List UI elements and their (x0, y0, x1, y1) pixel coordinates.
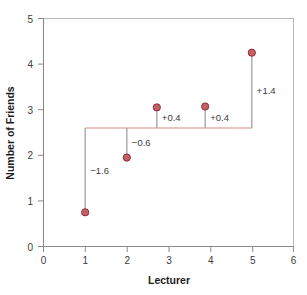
y-tick-label-4: 4 (27, 59, 33, 70)
data-point-4 (202, 103, 209, 110)
chart-canvas: 0 1 2 3 4 5 0 1 2 3 4 5 6 Lecturer Numbe… (0, 0, 307, 295)
deviation-label-5: +1.4 (257, 85, 276, 96)
x-tick-label-0: 0 (41, 255, 47, 266)
data-point-3 (153, 104, 160, 111)
y-tick-label-1: 1 (27, 196, 33, 207)
x-axis-ticks (44, 247, 294, 252)
x-axis-title: Lecturer (148, 274, 190, 286)
x-tick-label-5: 5 (250, 255, 256, 266)
y-tick-label-3: 3 (27, 105, 33, 116)
deviation-scatter-chart: 0 1 2 3 4 5 0 1 2 3 4 5 6 Lecturer Numbe… (0, 0, 307, 295)
y-tick-label-5: 5 (27, 14, 33, 25)
y-axis-title: Number of Friends (4, 86, 16, 180)
deviation-label-1: −1.6 (90, 165, 109, 176)
x-tick-label-3: 3 (166, 255, 172, 266)
deviation-label-3: +0.4 (162, 112, 181, 123)
deviation-label-4: +0.4 (210, 112, 229, 123)
data-point-5 (248, 49, 255, 56)
y-tick-label-0: 0 (27, 242, 33, 253)
x-tick-label-1: 1 (83, 255, 89, 266)
y-tick-label-2: 2 (27, 150, 33, 161)
data-point-1 (82, 209, 89, 216)
y-axis-ticks (38, 19, 43, 247)
x-tick-label-6: 6 (291, 255, 297, 266)
data-point-2 (123, 154, 130, 161)
x-tick-label-2: 2 (124, 255, 130, 266)
x-tick-label-4: 4 (208, 255, 214, 266)
deviation-label-2: −0.6 (132, 137, 151, 148)
plot-area-background (43, 18, 294, 247)
